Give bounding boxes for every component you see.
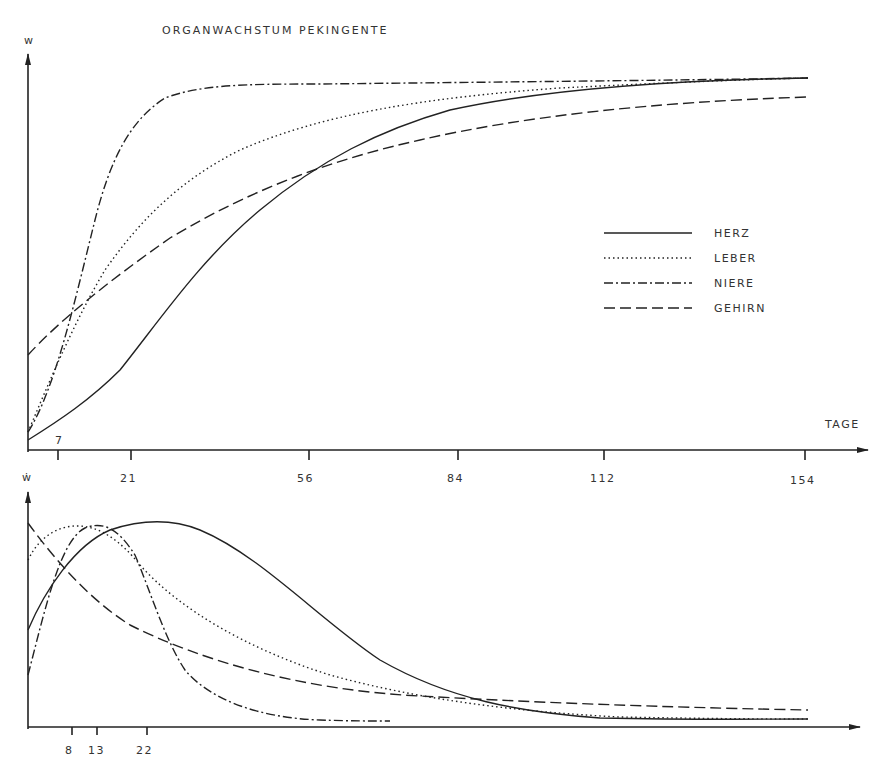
tick-label-154: 154 [790, 474, 816, 487]
tick-label-22: 22 [136, 744, 153, 757]
bottom-curves [28, 522, 808, 721]
y-axis-label-bottom: ẇ [22, 471, 33, 484]
bottom-axes [28, 492, 860, 735]
legend-label-leber: LEBER [714, 252, 757, 265]
curve-niere-bottom [28, 525, 390, 721]
chart-title: ORGANWACHSTUM PEKINGENTE [162, 24, 389, 37]
top-curves [28, 78, 808, 440]
curve-herz-top [28, 78, 808, 440]
tick-label-56: 56 [297, 472, 314, 485]
legend-label-gehirn: GEHIRN [714, 302, 766, 315]
tick-label-112: 112 [590, 472, 616, 485]
organ-growth-chart: ORGANWACHSTUM PEKINGENTE w TAGE 7 21 56 … [0, 0, 895, 770]
legend-label-herz: HERZ [714, 227, 750, 240]
curve-gehirn-top [28, 97, 808, 355]
legend-label-niere: NIERE [714, 277, 755, 290]
tick-label-8: 8 [65, 744, 74, 757]
tick-label-84: 84 [447, 472, 464, 485]
tick-label-7: 7 [55, 434, 64, 447]
tick-label-13: 13 [88, 744, 105, 757]
curve-leber-bottom [28, 526, 808, 719]
curve-gehirn-bottom [28, 523, 808, 710]
x-axis-label: TAGE [824, 418, 860, 431]
tick-label-21: 21 [120, 472, 137, 485]
y-axis-label-top: w [24, 34, 35, 47]
curve-herz-bottom [28, 522, 808, 720]
legend [604, 233, 692, 308]
